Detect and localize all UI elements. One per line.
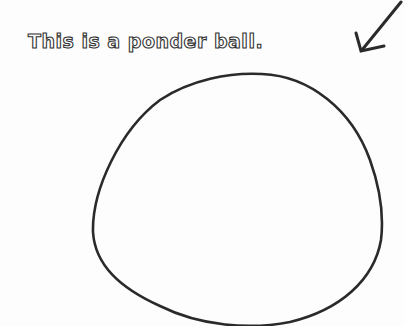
drawing — [0, 0, 404, 326]
ponder-ball-outline — [93, 74, 382, 326]
arrow-down-left-icon — [356, 2, 401, 51]
